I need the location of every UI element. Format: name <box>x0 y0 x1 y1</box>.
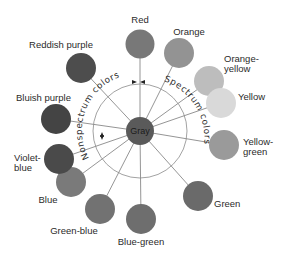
color-circle-reddish-purple <box>66 53 96 83</box>
color-label-bluish-purple: Bluish purple <box>16 92 71 103</box>
color-circle-blue-green <box>126 204 156 234</box>
color-circle-yellow <box>206 88 236 118</box>
color-circle-violet-blue <box>44 144 74 174</box>
color-label-yellow: Yellow <box>238 91 265 102</box>
color-label-blue: Blue <box>38 194 57 205</box>
gray-center-label: Gray <box>130 126 150 136</box>
color-label-reddish-purple: Reddish purple <box>29 39 93 50</box>
color-circle-green-blue <box>85 194 115 224</box>
arrow-down-icon <box>100 135 104 140</box>
color-label-blue-green: Blue-green <box>118 236 164 247</box>
color-circle-bluish-purple <box>41 104 71 134</box>
color-circle-yellow-green <box>209 130 239 160</box>
color-label-yellow-green: Yellow-green <box>243 136 273 157</box>
color-label-green-blue: Green-blue <box>50 225 98 236</box>
color-circle-orange <box>164 38 194 68</box>
arrow-left-icon <box>132 80 137 84</box>
color-circle-green <box>183 181 213 211</box>
color-label-green: Green <box>214 198 240 209</box>
color-label-orange-yellow: Orange-yellow <box>224 53 259 74</box>
color-label-red: Red <box>131 14 148 25</box>
color-label-violet-blue: Violet-blue <box>14 152 41 173</box>
color-label-orange: Orange <box>173 26 205 37</box>
color-circle-diagram: Nonspectrum colors Spectrum colors RedOr… <box>0 0 286 254</box>
color-circle-red <box>126 30 155 59</box>
nonspectrum-arc-label: Nonspectrum colors <box>74 69 121 161</box>
arrow-right-icon <box>140 80 145 84</box>
